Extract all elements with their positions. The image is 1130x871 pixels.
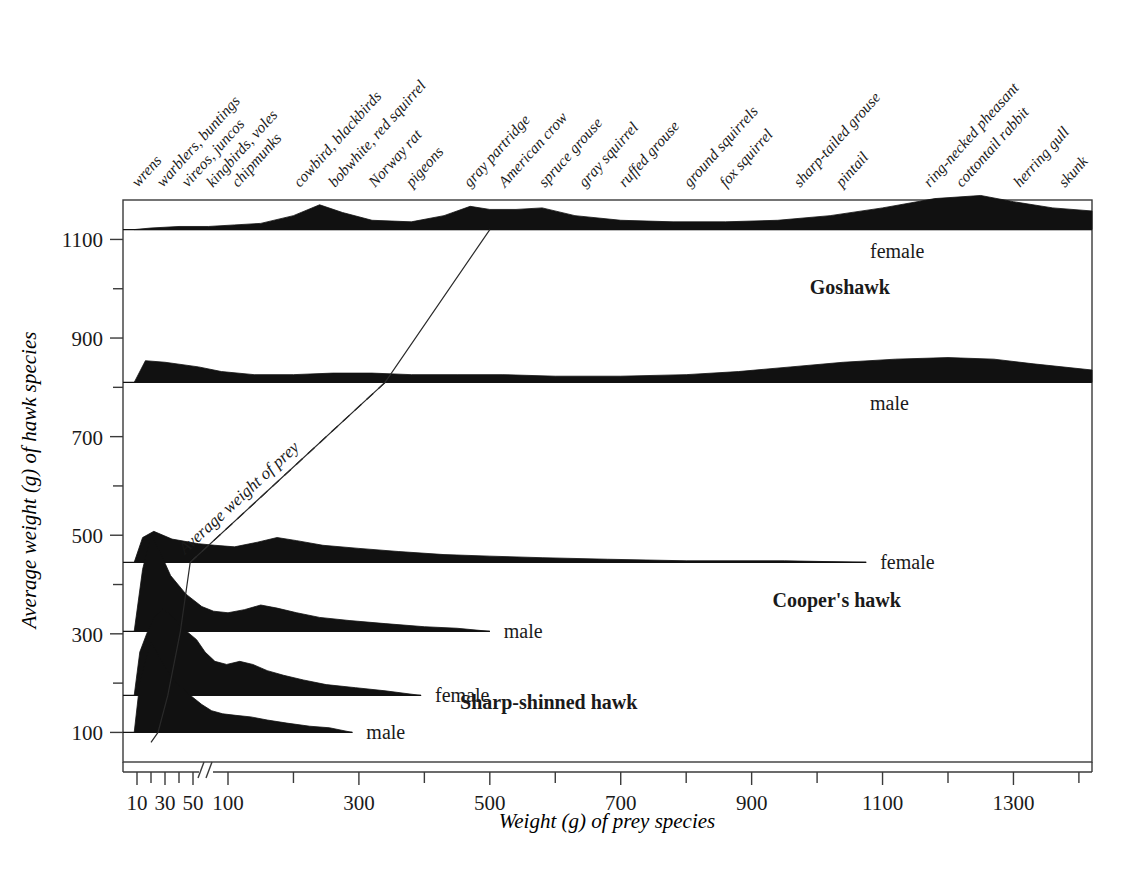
x-tick-label: 50 bbox=[183, 791, 204, 815]
x-axis-title: Weight (g) of prey species bbox=[499, 809, 716, 833]
series-sex-label: male bbox=[870, 392, 909, 414]
species-name-label: Goshawk bbox=[810, 276, 891, 298]
y-tick-label: 500 bbox=[72, 524, 104, 548]
y-tick-label: 900 bbox=[72, 327, 104, 351]
species-name-label: Sharp-shinned hawk bbox=[460, 691, 638, 714]
species-labels: GoshawkCooper's hawkSharp-shinned hawk bbox=[460, 276, 902, 714]
species-name-label: Cooper's hawk bbox=[773, 589, 902, 612]
prey-category-labels: wrenswarblers, buntingsvireos, juncoskin… bbox=[128, 77, 1092, 191]
x-tick-label: 300 bbox=[343, 791, 375, 815]
hawk-prey-chart: 1003005007009001100 10305010030050070090… bbox=[0, 0, 1130, 871]
y-axis-ticks: 1003005007009001100 bbox=[62, 228, 123, 745]
series-sex-label: female bbox=[880, 551, 935, 573]
density-curve bbox=[134, 531, 866, 562]
x-tick-label: 100 bbox=[212, 791, 244, 815]
series-sex-label: female bbox=[870, 240, 925, 262]
y-tick-label: 100 bbox=[72, 721, 104, 745]
axis-break-slash-1 bbox=[198, 762, 204, 778]
x-tick-label: 1300 bbox=[992, 791, 1034, 815]
y-tick-label: 700 bbox=[72, 426, 104, 450]
sex-labels: femalemalefemalemalefemalemale bbox=[366, 240, 934, 744]
chart-canvas: 1003005007009001100 10305010030050070090… bbox=[0, 0, 1130, 871]
y-axis-title: Average weight (g) of hawk species bbox=[17, 332, 41, 631]
density-curve bbox=[134, 358, 1092, 383]
axis-break-slash-2 bbox=[206, 762, 212, 778]
average-prey-weight-dashed-leader bbox=[190, 382, 385, 562]
x-tick-label: 30 bbox=[155, 791, 176, 815]
series-sex-label: male bbox=[366, 721, 405, 743]
x-tick-label: 1100 bbox=[862, 791, 903, 815]
y-tick-label: 300 bbox=[72, 623, 104, 647]
y-tick-label: 1100 bbox=[62, 228, 103, 252]
prey-category-label: skunk bbox=[1055, 152, 1092, 190]
x-tick-label: 10 bbox=[127, 791, 148, 815]
x-tick-label: 900 bbox=[736, 791, 768, 815]
series-sex-label: male bbox=[504, 620, 543, 642]
prey-category-label: pintail bbox=[831, 149, 871, 191]
